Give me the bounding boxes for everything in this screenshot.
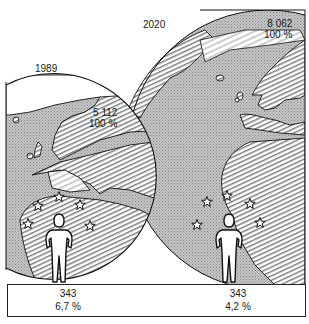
eu-pct-2020: 4,2 % <box>208 300 268 313</box>
eu-value-1989: 343 <box>38 287 98 300</box>
world-value-1989: 5 112 <box>89 107 117 118</box>
eu-stats-1989: 343 6,7 % <box>38 287 98 313</box>
year-label-1989: 1989 <box>35 63 57 74</box>
illustration <box>0 0 309 324</box>
eu-population-box: 343 6,7 % 343 4,2 % <box>7 284 306 317</box>
eu-value-2020: 343 <box>208 287 268 300</box>
eu-stats-2020: 343 4,2 % <box>208 287 268 313</box>
world-population-2020: 8 062 100 % <box>264 18 292 40</box>
globe-2020 <box>128 10 309 290</box>
world-pct-2020: 100 % <box>264 29 292 40</box>
world-population-1989: 5 112 100 % <box>89 107 117 129</box>
year-label-2020: 2020 <box>143 19 165 30</box>
world-pct-1989: 100 % <box>89 118 117 129</box>
eu-pct-1989: 6,7 % <box>38 300 98 313</box>
world-value-2020: 8 062 <box>264 18 292 29</box>
